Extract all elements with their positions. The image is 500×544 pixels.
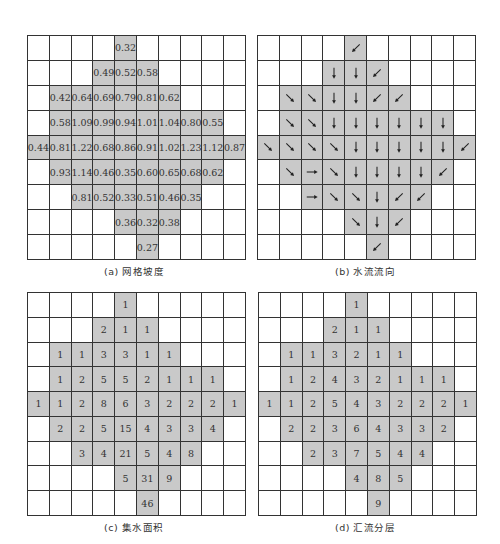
grid-cell: 0.81 [137,86,159,111]
grid-cell [93,36,115,61]
grid-cell [411,136,433,161]
grid-cell [432,185,454,210]
grid-cell [28,442,50,467]
cell-value: 0.49 [93,67,114,78]
grid-cell [259,318,281,343]
arrow-down-icon [436,140,450,154]
arrow-down-icon [436,116,450,130]
grid-cell: 15 [115,417,137,442]
cell-value: 1.09 [72,117,93,128]
cell-value: 1 [288,374,294,385]
grid-cell: 2 [433,417,455,442]
grid-cell: 9 [159,466,181,491]
arrow-down-left-icon [349,41,363,55]
grid-cell [345,111,367,136]
grid-cell [433,343,455,368]
grid-cell [302,185,324,210]
grid-cell [411,235,433,260]
grid-cell [72,466,94,491]
grid-cell: 1 [115,318,137,343]
grid-cell [302,235,324,260]
grid-cell: 4 [93,442,115,467]
grid-cell: 3 [324,442,346,467]
grid-cell: 46 [137,491,159,516]
grid-cell: 0.46 [159,185,181,210]
cell-value: 0.93 [50,167,71,178]
cell-value: 5 [375,448,381,459]
arrow-down-icon [349,140,363,154]
cell-value: 0.69 [93,92,114,103]
grid-cell [259,466,281,491]
cell-value: 1.01 [137,117,158,128]
grid-cell [323,61,345,86]
grid-cell [50,318,72,343]
grid-cell: 0.44 [28,136,50,161]
grid-cell [389,111,411,136]
grid-cell: 7 [346,442,368,467]
arrow-down-left-icon [370,66,384,80]
grid-cell [224,61,246,86]
grid-cell [390,491,412,516]
cell-value: 1 [288,349,294,360]
grid-cell: 3 [412,417,434,442]
cell-value: 2 [310,398,316,409]
grid-cell: 0.32 [115,36,137,61]
cell-value: 2 [441,423,447,434]
cell-value: 1 [79,349,85,360]
grid-cell: 1 [281,343,303,368]
grid-cell: 1 [412,367,434,392]
cell-value: 1 [166,374,172,385]
grid-cell: 3 [72,442,94,467]
grid-cell [302,210,324,235]
grid-cell [323,210,345,235]
arrow-down-right-icon [305,140,319,154]
grid-cell [411,210,433,235]
cell-value: 2 [288,423,294,434]
arrow-down-icon [392,165,406,179]
grid-cell: 2 [324,318,346,343]
arrow-right-icon [305,165,319,179]
grid-cell [28,61,50,86]
grid-cell [50,466,72,491]
grid-cell [324,293,346,318]
cell-value: 1 [397,349,403,360]
grid-cell [202,442,224,467]
grid-cell: 3 [181,417,203,442]
grid-cell: 5 [93,417,115,442]
cell-value: 2 [79,423,85,434]
grid-cell [302,111,324,136]
cell-value: 1.12 [202,142,223,153]
grid-cell: 5 [115,367,137,392]
arrow-down-right-icon [283,91,297,105]
cell-value: 6 [354,423,360,434]
grid-cell: 5 [368,442,390,467]
grid-cell [258,136,280,161]
cell-value: 1 [288,398,294,409]
cell-value: 0.35 [181,192,202,203]
grid-cell [281,442,303,467]
grid-cell [346,491,368,516]
cell-value: 0.94 [115,117,136,128]
cell-value: 0.87 [224,142,245,153]
grid-cell [202,86,224,111]
grid-cell: 2 [303,392,325,417]
grid-cell [258,36,280,61]
grid-cell [411,160,433,185]
grid-cell: 1 [115,293,137,318]
grid-cell [454,210,476,235]
grid-cell [181,293,203,318]
arrow-down-icon [370,190,384,204]
grid-cell [433,442,455,467]
grid-cell [50,491,72,516]
cell-value: 21 [120,448,132,459]
cell-value: 0.55 [202,117,223,128]
grid-cell: 0.81 [50,136,72,161]
arrow-down-right-icon [283,165,297,179]
grid-cell: 0.38 [159,210,181,235]
grid-cell: 3 [368,392,390,417]
grid-cell: 2 [137,367,159,392]
cell-value: 5 [101,374,107,385]
arrow-down-icon [370,140,384,154]
grid-cell: 1 [390,343,412,368]
caption-c: (c) 集水面积 [104,520,164,534]
